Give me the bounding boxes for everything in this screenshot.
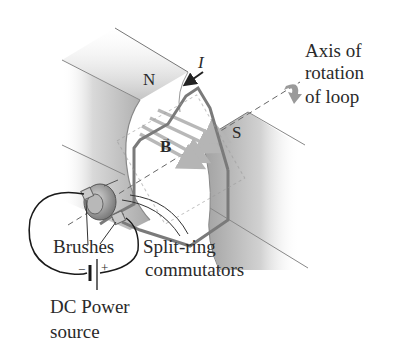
- south-pole-label: S: [232, 122, 241, 144]
- axis-label-line2: rotation: [305, 62, 364, 84]
- axis-label-line3: of loop: [305, 86, 359, 108]
- dc-motor-diagram: N S I → B Axis of rotation of loop Brush…: [0, 0, 398, 351]
- current-label: I: [198, 52, 204, 74]
- field-vector-label: → B: [160, 136, 171, 158]
- plus-sign: +: [101, 257, 108, 279]
- power-label-line2: source: [50, 321, 100, 343]
- minus-sign: −: [78, 259, 85, 281]
- rotation-arrow-icon: [284, 84, 302, 104]
- axis-label-line1: Axis of: [305, 40, 361, 62]
- vector-arrow-icon: →: [161, 127, 171, 149]
- battery-icon: [90, 259, 97, 290]
- north-pole-label: N: [143, 69, 155, 91]
- commutator-label-line2: commutators: [145, 259, 244, 281]
- commutator-label-line1: Split-ring: [143, 236, 216, 258]
- power-label-line1: DC Power: [50, 296, 130, 318]
- brushes-label: Brushes: [53, 236, 114, 258]
